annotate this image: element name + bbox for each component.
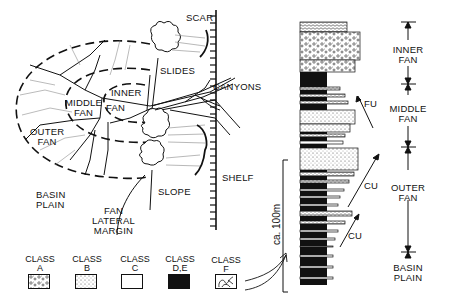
legend-title-a: CLASSA [20, 255, 60, 273]
zone-middle-fan: MIDDLEFAN [388, 104, 428, 124]
column-bed [300, 134, 345, 137]
column-bed [300, 196, 340, 198]
legend-title-de: CLASSD,E [160, 255, 200, 273]
column-bed [300, 277, 333, 279]
label-outer-fan-word: FAN [30, 137, 64, 147]
legend-arrow [245, 253, 287, 290]
label-inner-fan-word: FAN [106, 103, 125, 113]
label-inner: INNER [111, 88, 142, 98]
column-bed [300, 230, 338, 232]
column-bed [300, 246, 333, 247]
column-bed [300, 255, 333, 257]
column-bed [300, 204, 338, 206]
label-margin: MARGIN [92, 226, 135, 236]
label-outer-fan: OUTER FAN [30, 127, 64, 147]
trend-label-cu-lower: CU [348, 231, 362, 241]
legend-title-c: CLASSC [115, 255, 155, 273]
label-canyons: CANYONS [213, 82, 261, 92]
label-fan-lateral-margin: FAN LATERAL MARGIN [92, 206, 135, 236]
slope-line [150, 170, 152, 210]
sediment-column [300, 22, 360, 285]
column-bed [300, 101, 348, 104]
label-shelf: SHELF [222, 173, 254, 183]
column-bed [300, 266, 333, 268]
label-plain: PLAIN [36, 200, 66, 210]
trend-label-fu: FU [364, 99, 377, 109]
zone-basin-plain: BASINPLAIN [388, 263, 428, 283]
swatch-sandstone [75, 274, 97, 289]
column-bed [300, 221, 345, 224]
column-bed [300, 124, 350, 132]
column-bed [300, 110, 355, 124]
column-bed [300, 32, 360, 60]
swatch-white [121, 274, 143, 289]
label-slope: SLOPE [158, 187, 191, 197]
scale-label: ca. 100m [271, 195, 282, 255]
swatch-conglomerate [28, 274, 50, 289]
slide-margin-line [152, 58, 158, 110]
column-bed [300, 148, 358, 170]
column-bed [300, 172, 354, 176]
swatch-slump [215, 274, 237, 289]
zone-inner-fan: INNERFAN [388, 45, 428, 65]
column-bed [300, 60, 355, 72]
label-basin-plain: BASIN PLAIN [36, 190, 66, 210]
distributary-channels [25, 40, 240, 175]
zone-outer-fan: OUTERFAN [388, 183, 428, 203]
legend-title-b: CLASSB [67, 255, 107, 273]
column-bed [300, 94, 345, 97]
label-middle-fan: MIDDLE FAN [65, 98, 102, 118]
swatch-black [168, 274, 190, 289]
column-bed [300, 180, 349, 183]
label-scar: SCAR [186, 13, 213, 23]
shelf-edge [210, 10, 216, 230]
column-bed [300, 189, 344, 191]
column-bed [300, 22, 347, 32]
column-bed [300, 238, 335, 240]
column-bed [300, 211, 352, 216]
label-slides: SLIDES [160, 66, 195, 76]
legend-title-f: CLASSF [206, 256, 246, 274]
column-bed [300, 87, 340, 90]
label-middle-fan-word: FAN [65, 108, 102, 118]
trend-label-cu-upper: CU [364, 181, 378, 191]
scale-bar [283, 160, 288, 292]
column-bed [300, 141, 343, 144]
